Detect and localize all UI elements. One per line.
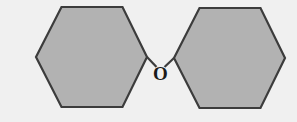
right-benzene-ring — [174, 8, 285, 108]
structure-canvas: O — [0, 0, 297, 122]
chemical-structure-diagram: O — [0, 0, 297, 122]
left-benzene-ring — [36, 7, 147, 107]
oxygen-atom-label: O — [153, 63, 168, 84]
